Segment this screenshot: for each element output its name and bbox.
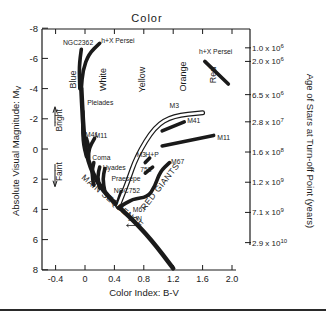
x-axis-label: Color Index: B-V (109, 287, 179, 298)
age-tick-label: 1.0 x 106 (252, 43, 284, 53)
x-tick-label: 2.0 (226, 274, 239, 284)
y-tick-label: -2 (30, 113, 38, 124)
y-tick-label: -4 (30, 83, 38, 94)
svg-text:Bright: Bright (54, 109, 64, 132)
age-tick-label: 2.8 x 107 (252, 117, 284, 127)
x-tick-label: 0.8 (138, 274, 151, 284)
cluster-label: Hyades (103, 164, 127, 172)
cluster-label: M11 (217, 134, 230, 141)
y-tick-label: 8 (33, 264, 38, 275)
age-tick-label: 6.5 x 106 (252, 90, 284, 100)
color-band-label: Blue (68, 71, 78, 89)
cluster-label: Praesepe (111, 175, 140, 183)
cluster-label: Coma (92, 154, 110, 161)
y-axis-label: Absolute Visual Magnitude: MV (10, 86, 22, 217)
cluster-label: M41 (187, 117, 200, 124)
svg-text:Orange: Orange (178, 62, 188, 92)
cluster-label: NGC752 (114, 187, 141, 194)
age-tick-label: 1.2 x 109 (252, 177, 284, 187)
faint-label: Faint (54, 162, 64, 182)
cluster-label: h+X Persei (199, 48, 233, 55)
y-tick-label: 0 (33, 144, 38, 155)
svg-text:Faint: Faint (54, 162, 64, 182)
cluster-label: NGC2362 (63, 39, 93, 46)
x-tick-label: 1.6 (196, 274, 209, 284)
svg-text:Blue: Blue (68, 71, 78, 89)
y-tick-label: 6 (33, 234, 38, 245)
x-tick-label: -0.4 (48, 274, 64, 284)
curve-m41-giants (162, 122, 184, 131)
right-axis-label: Age of Stars at Turn-off Point (years) (305, 74, 316, 229)
color-band-label: White (98, 68, 108, 91)
cluster-label: M3 (170, 102, 180, 109)
y-tick-label: -8 (30, 23, 38, 34)
y-tick-label: 2 (33, 174, 38, 185)
y-tick-label: -6 (30, 53, 38, 64)
curve-m11-giants (162, 135, 213, 146)
hr-diagram-plot: -0.400.40.81.21.62.0-8-6-4-2024681.0 x 1… (0, 0, 326, 321)
x-tick-label: 0 (82, 274, 87, 284)
x-tick-label: 0.4 (108, 274, 121, 284)
cluster-label: H+P (145, 151, 159, 158)
color-band-label: Yellow (137, 66, 147, 92)
y-tick-label: 4 (33, 204, 38, 215)
chart-title: Color (131, 12, 162, 24)
age-tick-label: 2.0 x 106 (252, 56, 284, 66)
cluster-label: Pleiades (87, 99, 114, 106)
x-tick-label: 1.2 (167, 274, 180, 284)
age-tick-label: 1.6 x 108 (252, 147, 284, 157)
svg-text:Yellow: Yellow (137, 66, 147, 92)
cluster-label: h+X Persei (101, 37, 135, 44)
age-tick-label: 2.9 x 1010 (252, 238, 288, 248)
color-band-label: Orange (178, 62, 188, 92)
hr-diagram-figure: -0.400.40.81.21.62.0-8-6-4-2024681.0 x 1… (0, 0, 326, 321)
cluster-label: 752 (140, 166, 152, 173)
curve-h-p (145, 158, 149, 163)
age-tick-label: 7.1 x 109 (252, 207, 284, 217)
cluster-label: M11 (95, 132, 108, 139)
bright-label: Bright (54, 109, 64, 132)
page-divider (0, 309, 326, 311)
svg-text:White: White (98, 68, 108, 91)
